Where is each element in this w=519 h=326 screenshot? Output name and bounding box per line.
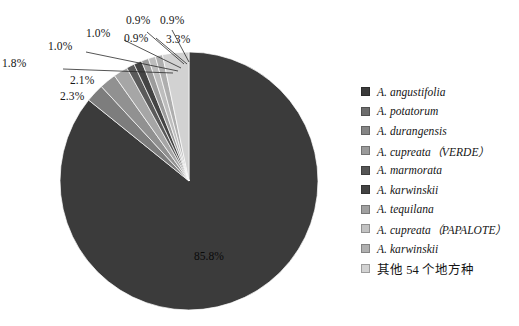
legend-item[interactable]: A. karwinskii <box>361 239 519 259</box>
pie-slices-group <box>60 52 318 310</box>
slice-label-3-3: 3.3% <box>166 33 190 45</box>
legend-item-label: A. potatorum <box>377 105 438 117</box>
slice-label-1-8: 1.8% <box>2 57 26 69</box>
legend-item-label: A. angustifolia <box>377 86 445 98</box>
legend-item-label: A. durangensis <box>377 125 447 137</box>
slice-label-0-9-a: 0.9% <box>126 14 150 26</box>
legend-item[interactable]: A. cupreata（PAPALOTE） <box>361 219 519 239</box>
slice-label-0-9-c: 0.9% <box>160 14 184 26</box>
legend-swatch-icon <box>361 205 370 214</box>
legend-item[interactable]: A. angustifolia <box>361 82 519 102</box>
legend-item[interactable]: A. durangensis <box>361 121 519 141</box>
pie-plot-area: 1.8% 1.0% 1.0% 0.9% 0.9% 0.9% 3.3% 2.1% … <box>0 0 345 326</box>
legend-swatch-icon <box>361 224 370 233</box>
legend-swatch-icon <box>361 185 370 194</box>
legend-swatch-icon <box>361 244 370 253</box>
legend-item[interactable]: A. tequilana <box>361 200 519 220</box>
legend-swatch-icon <box>361 126 370 135</box>
slice-label-85-8: 85.8% <box>194 250 224 262</box>
legend-item[interactable]: A. marmorata <box>361 160 519 180</box>
chart-legend: A. angustifoliaA. potatorumA. durangensi… <box>361 82 519 278</box>
pie-chart-figure: 1.8% 1.0% 1.0% 0.9% 0.9% 0.9% 3.3% 2.1% … <box>0 0 519 326</box>
legend-item-label: A. karwinskii <box>377 243 438 255</box>
legend-swatch-icon <box>361 264 370 273</box>
slice-label-0-9-b: 0.9% <box>124 32 148 44</box>
legend-swatch-icon <box>361 107 370 116</box>
legend-item[interactable]: 其他 54 个地方种 <box>361 258 519 278</box>
slice-label-1-0-a: 1.0% <box>48 40 72 52</box>
legend-swatch-icon <box>361 166 370 175</box>
legend-item[interactable]: A. potatorum <box>361 102 519 122</box>
legend-swatch-icon <box>361 146 370 155</box>
legend-item-label: 其他 54 个地方种 <box>377 259 474 278</box>
legend-item-label: A. marmorata <box>377 164 442 176</box>
legend-swatch-icon <box>361 87 370 96</box>
legend-item-label: A. karwinskii <box>377 184 438 196</box>
legend-item-label: A. cupreata（PAPALOTE） <box>377 221 507 237</box>
slice-label-2-3: 2.3% <box>60 90 84 102</box>
legend-item[interactable]: A. karwinskii <box>361 180 519 200</box>
legend-item-label: A. tequilana <box>377 203 434 215</box>
slice-label-2-1: 2.1% <box>70 74 94 86</box>
slice-label-1-0-b: 1.0% <box>86 27 110 39</box>
legend-item[interactable]: A. cupreata（VERDE） <box>361 141 519 161</box>
legend-item-label: A. cupreata（VERDE） <box>377 143 490 159</box>
